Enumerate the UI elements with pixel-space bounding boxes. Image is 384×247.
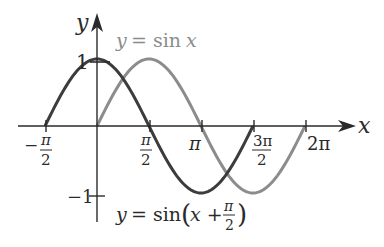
frac-den: 2 (257, 151, 267, 169)
label-sin-x: y = sin x (115, 29, 197, 51)
close-paren: ) (237, 199, 247, 229)
minus-sign: − (24, 135, 38, 155)
graph-canvas: y x 1 −1 − π 2 π 2 π 3π 2 2π y = sin x y… (0, 0, 384, 247)
frac-den: 2 (225, 217, 234, 233)
x-tick-label-3pi-half: 3π 2 (252, 132, 273, 169)
label-y: y (115, 203, 127, 225)
x-tick-label-pi-half: π 2 (140, 131, 152, 169)
label-eq: = sin (131, 203, 181, 225)
frac-num: π (40, 131, 52, 149)
x-tick-label-pi: π (188, 133, 202, 154)
y-tick-label-1: 1 (76, 50, 89, 74)
y-axis-label: y (75, 10, 89, 35)
label-sin-shift: y = sin ( x + π 2 ) (115, 198, 247, 233)
label-x: x (186, 29, 197, 51)
x-tick-label-neg-pi-half: − π 2 (24, 131, 52, 169)
frac-den: 2 (41, 151, 51, 169)
frac-den: 2 (141, 151, 151, 169)
label-y: y (115, 29, 127, 51)
label-arg: x + (190, 203, 223, 225)
label-eq: = sin (131, 29, 181, 51)
frac-num: π (140, 131, 152, 149)
x-axis-label: x (358, 113, 371, 138)
frac-num: 3π (253, 132, 273, 150)
x-tick-label-2pi: 2π (307, 133, 330, 154)
y-tick-label-neg-1: −1 (67, 186, 94, 207)
frac-num: π (223, 198, 234, 214)
